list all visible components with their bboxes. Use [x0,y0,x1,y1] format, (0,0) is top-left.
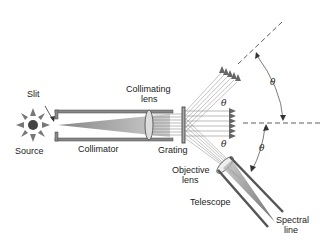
collimator-label: Collimator [78,144,119,154]
collimator-tube [55,110,173,141]
theta-upper-inner: θ [221,98,226,108]
angle-arcs [252,54,283,170]
collimating-lens-label-line1: Collimating [126,84,171,94]
theta-lower-outer: θ [259,143,264,153]
source-icon [16,108,50,142]
grating [182,107,185,143]
spectral-line-label-line1: Spectral [276,215,309,225]
collimating-lens [145,110,153,140]
angle-reference-lines [238,22,322,123]
collimating-lens-label-line2: lens [141,94,158,104]
diagram-graphics [0,0,329,250]
objective-lens-label-line2: lens [182,175,199,185]
objective-lens-label-line1: Objective [172,165,210,175]
telescope-label: Telescope [190,197,231,207]
slit-label: Slit [27,89,40,99]
theta-upper-outer: θ [270,77,275,87]
source-label: Source [15,146,44,156]
telescope [214,154,283,227]
theta-lower-inner: θ [221,139,226,149]
spectral-line-label-line2: line [284,225,298,235]
spectrometer-diagram: Slit Source Collimator Collimating lens … [0,0,329,250]
grating-label: Grating [158,145,188,155]
